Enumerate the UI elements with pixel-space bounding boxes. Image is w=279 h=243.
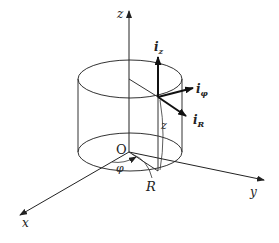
iz-label: iz bbox=[154, 40, 164, 56]
iphi-label: iφ bbox=[196, 82, 209, 98]
y-axis bbox=[129, 152, 264, 180]
height-label: z bbox=[160, 119, 167, 132]
z-height-arc bbox=[160, 100, 163, 170]
x-axis bbox=[20, 152, 129, 215]
iR-label: iR bbox=[193, 113, 205, 129]
x-axis-label: x bbox=[22, 216, 29, 230]
z-axis-label: z bbox=[116, 7, 124, 21]
origin-label: O bbox=[116, 142, 127, 157]
cylinder-top-ellipse bbox=[78, 60, 182, 98]
unit-vector-iphi bbox=[158, 88, 193, 97]
top-radius-line bbox=[129, 79, 158, 97]
radius-label: R bbox=[145, 179, 156, 194]
cylindrical-coordinates-diagram: z y x O R φ z iz iφ iR bbox=[0, 0, 279, 243]
cylinder bbox=[78, 60, 182, 171]
y-axis-label: y bbox=[249, 185, 257, 199]
angle-label: φ bbox=[116, 162, 124, 175]
